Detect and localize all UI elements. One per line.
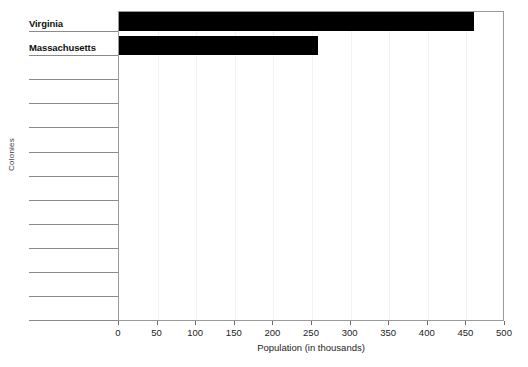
x-axis-tick [234,321,235,325]
category-label-blank [29,129,118,153]
x-axis-tick-label: 50 [137,327,177,338]
x-axis-tick [388,321,389,325]
category-label-text: Massachusetts [29,42,118,53]
x-axis-tick [118,321,119,325]
category-label-blank [29,153,118,177]
gridline [389,12,390,320]
category-label-row-filled: Virginia [29,8,118,32]
x-axis-title: Population (in thousands) [118,342,504,353]
gridline [428,12,429,320]
x-axis-tick-label: 400 [407,327,447,338]
plot-area [118,11,504,321]
category-label-blank [29,273,118,297]
x-axis-tick [504,321,505,325]
x-axis-tick-label: 200 [252,327,292,338]
category-label-blank [29,225,118,249]
category-label-blank [29,177,118,201]
x-axis-tick [272,321,273,325]
x-axis-tick [157,321,158,325]
x-axis-tick-label: 300 [330,327,370,338]
category-label-blank [29,297,118,321]
x-axis-tick-label: 150 [214,327,254,338]
gridline [235,12,236,320]
bar-chart: Colonies VirginiaMassachusetts 050100150… [0,0,528,367]
bar [119,36,318,55]
x-axis-tick-label: 450 [445,327,485,338]
x-axis-tick-label: 0 [98,327,138,338]
gridline [196,12,197,320]
chart-title-cropped [150,0,450,5]
x-axis-tick-label: 350 [368,327,408,338]
x-axis-tick-label: 500 [484,327,524,338]
category-label-text: Virginia [29,18,118,29]
category-label-blank [29,201,118,225]
gridline [351,12,352,320]
x-axis-tick [195,321,196,325]
gridline [273,12,274,320]
x-axis-tick [311,321,312,325]
y-axis-title: Colonies [7,125,16,185]
gridline [158,12,159,320]
x-axis-tick-label: 250 [291,327,331,338]
category-label-blank [29,249,118,273]
gridline [466,12,467,320]
x-axis-tick [465,321,466,325]
category-label-blank [29,80,118,104]
bar [119,12,474,31]
x-axis-tick [427,321,428,325]
category-label-blank [29,104,118,128]
category-label-blank [29,56,118,80]
x-axis-tick-label: 100 [175,327,215,338]
category-label-column: VirginiaMassachusetts [29,8,118,322]
category-label-row-filled: Massachusetts [29,32,118,56]
gridline [312,12,313,320]
x-axis-tick [350,321,351,325]
